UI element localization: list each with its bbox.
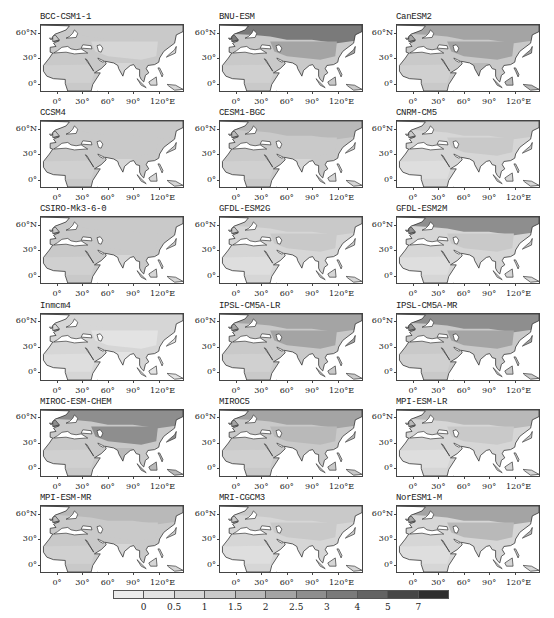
y-tick bbox=[38, 129, 41, 130]
map-panel: MPI-ESM-LR60°N30°0°0°30°60°90°120°E bbox=[384, 409, 554, 505]
colorbar-label: 1.5 bbox=[228, 602, 242, 612]
x-tick-label: 30° bbox=[431, 289, 445, 298]
x-tick-label: 60° bbox=[101, 193, 115, 202]
x-tick-label: 30° bbox=[431, 386, 445, 395]
x-tick bbox=[261, 91, 262, 94]
y-tick-label: 0° bbox=[367, 560, 393, 569]
x-tick bbox=[515, 572, 516, 575]
map-plot bbox=[219, 409, 363, 477]
map-panel: GFDL-ESM2G60°N30°0°0°30°60°90°120°E bbox=[207, 216, 387, 312]
panel-title: GFDL-ESM2M bbox=[396, 204, 447, 214]
map-panel: CSIRO-Mk3-6-060°N30°0°0°30°60°90°120°E bbox=[28, 216, 208, 312]
x-tick bbox=[82, 91, 83, 94]
x-tick-label: 0° bbox=[52, 289, 61, 298]
colorbar-label: 0.5 bbox=[167, 602, 181, 612]
x-tick-label: 120°E bbox=[150, 289, 175, 298]
x-tick bbox=[413, 283, 414, 286]
map-plot bbox=[396, 313, 540, 381]
x-tick bbox=[159, 380, 160, 383]
y-tick-label: 0° bbox=[190, 367, 216, 376]
y-tick-label: 30° bbox=[367, 438, 393, 447]
x-tick bbox=[108, 572, 109, 575]
map-panel: CanESM260°N30°0°0°30°60°90°120°E bbox=[384, 24, 554, 120]
panel-title: MPI-ESM-MR bbox=[40, 493, 91, 503]
y-tick bbox=[217, 539, 220, 540]
y-tick-label: 30° bbox=[11, 245, 37, 254]
y-tick bbox=[38, 539, 41, 540]
panel-title: MIROC-ESM-CHEM bbox=[40, 397, 111, 407]
panel-title: NorESM1-M bbox=[396, 493, 442, 503]
x-tick bbox=[464, 380, 465, 383]
y-tick bbox=[38, 372, 41, 373]
x-tick bbox=[287, 476, 288, 479]
panel-title: GFDL-ESM2G bbox=[219, 204, 270, 214]
map-panel: MPI-ESM-MR60°N30°0°0°30°60°90°120°E bbox=[28, 505, 208, 601]
map-panel: MIROC560°N30°0°0°30°60°90°120°E bbox=[207, 409, 387, 505]
x-tick bbox=[338, 572, 339, 575]
y-tick bbox=[394, 417, 397, 418]
x-tick-label: 90° bbox=[482, 578, 496, 587]
y-tick bbox=[394, 276, 397, 277]
y-tick-label: 60°N bbox=[190, 412, 216, 421]
x-tick-label: 60° bbox=[457, 386, 471, 395]
x-tick-label: 120°E bbox=[329, 386, 354, 395]
map-panel: CCSM460°N30°0°0°30°60°90°120°E bbox=[28, 120, 208, 216]
x-tick bbox=[236, 380, 237, 383]
x-tick-label: 30° bbox=[75, 386, 89, 395]
panel-title: BCC-CSM1-1 bbox=[40, 12, 91, 22]
x-tick-label: 90° bbox=[482, 193, 496, 202]
colorbar-swatch bbox=[297, 591, 327, 598]
y-tick-label: 30° bbox=[367, 53, 393, 62]
colorbar-label: 2 bbox=[263, 602, 269, 612]
colorbar-swatch bbox=[114, 591, 144, 598]
y-tick bbox=[38, 58, 41, 59]
x-tick-label: 120°E bbox=[506, 386, 531, 395]
map-panel: IPSL-CM5A-LR60°N30°0°0°30°60°90°120°E bbox=[207, 313, 387, 409]
y-tick bbox=[217, 468, 220, 469]
x-tick bbox=[159, 283, 160, 286]
map-plot bbox=[219, 24, 363, 92]
x-tick bbox=[312, 91, 313, 94]
y-tick-label: 30° bbox=[11, 534, 37, 543]
y-tick bbox=[38, 514, 41, 515]
x-tick-label: 30° bbox=[75, 97, 89, 106]
y-tick bbox=[217, 250, 220, 251]
colorbar-swatch bbox=[419, 591, 448, 598]
y-tick-label: 30° bbox=[190, 149, 216, 158]
x-tick-label: 30° bbox=[431, 482, 445, 491]
y-tick bbox=[217, 276, 220, 277]
map-panel: NorESM1-M60°N30°0°0°30°60°90°120°E bbox=[384, 505, 554, 601]
x-tick bbox=[82, 380, 83, 383]
colorbar-label: 1 bbox=[202, 602, 208, 612]
y-tick-label: 60°N bbox=[367, 412, 393, 421]
y-tick bbox=[38, 276, 41, 277]
y-tick bbox=[217, 58, 220, 59]
x-tick bbox=[338, 380, 339, 383]
y-tick bbox=[217, 321, 220, 322]
colorbar-swatch bbox=[327, 591, 357, 598]
colorbar-swatch bbox=[358, 591, 388, 598]
y-tick bbox=[394, 321, 397, 322]
y-tick bbox=[394, 347, 397, 348]
y-tick-label: 60°N bbox=[190, 220, 216, 229]
x-tick bbox=[438, 572, 439, 575]
y-tick-label: 0° bbox=[367, 463, 393, 472]
map-panel: BCC-CSM1-160°N30°0°0°30°60°90°120°E bbox=[28, 24, 208, 120]
x-tick bbox=[57, 283, 58, 286]
x-tick-label: 120°E bbox=[150, 386, 175, 395]
x-tick bbox=[236, 187, 237, 190]
x-tick-label: 30° bbox=[254, 193, 268, 202]
y-tick-label: 0° bbox=[367, 271, 393, 280]
x-tick bbox=[438, 283, 439, 286]
x-tick bbox=[236, 476, 237, 479]
x-tick bbox=[108, 283, 109, 286]
y-tick bbox=[394, 539, 397, 540]
y-tick-label: 60°N bbox=[11, 509, 37, 518]
x-tick-label: 60° bbox=[457, 193, 471, 202]
y-tick-label: 30° bbox=[11, 53, 37, 62]
map-plot bbox=[40, 313, 184, 381]
x-tick bbox=[312, 187, 313, 190]
y-tick-label: 0° bbox=[190, 79, 216, 88]
y-tick-label: 0° bbox=[11, 367, 37, 376]
y-tick-label: 60°N bbox=[11, 316, 37, 325]
